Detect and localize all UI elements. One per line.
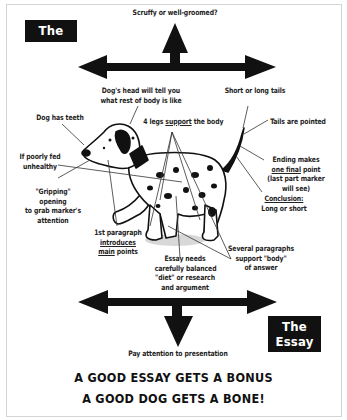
dog-title: The Dog <box>38 23 65 60</box>
essay-title-line2: Essay <box>268 334 321 349</box>
label-dog-head: Dog's head will tell you what rest of bo… <box>100 86 183 105</box>
label-several-paragraphs: Several paragraphs support "body" of ans… <box>228 244 294 273</box>
footer-line-2: A GOOD DOG GETS A BONE! <box>0 391 347 406</box>
up-arrow <box>162 23 188 64</box>
essay-title-line1: The <box>268 319 321 334</box>
bottom-arrow-group <box>78 290 277 347</box>
dog-head <box>84 124 140 169</box>
leader-short-long-tails <box>243 106 248 128</box>
label-short-long-tails: Short or long tails <box>225 86 286 96</box>
dog-title-box: The Dog <box>25 20 77 42</box>
leader-ending <box>240 146 264 160</box>
label-ending: Ending makes one final point (last part … <box>267 155 326 193</box>
label-tails-pointed: Tails are pointed <box>269 117 328 127</box>
essay-title-box: The Essay <box>268 316 321 352</box>
dog-tail <box>222 128 244 172</box>
leader-tails-pointed <box>244 120 268 134</box>
top-arrow-group <box>78 23 276 79</box>
label-conclusion: Conclusion: Long or short <box>257 194 310 213</box>
label-essay-needs: Essay needs carefully balanced "diet" or… <box>155 254 216 292</box>
label-first-paragraph: 1st paragraph introduces main points <box>90 228 145 257</box>
label-gripping: "Gripping" opening to grab marker's atte… <box>23 187 84 225</box>
dog-nose <box>82 150 90 156</box>
down-arrow <box>164 305 193 347</box>
top-arrow-label: Scruffy or well-groomed? <box>129 8 221 18</box>
label-dog-teeth: Dog has teeth <box>36 113 84 123</box>
leader-dog-teeth <box>62 124 84 145</box>
footer-line-1: A GOOD ESSAY GETS A BONUS <box>0 370 347 385</box>
label-four-legs: 4 legs support the body <box>143 117 217 127</box>
leader-dog-head <box>130 106 138 124</box>
leader-conclusion <box>236 156 262 192</box>
bottom-arrow-label: Pay attention to presentation <box>125 349 232 359</box>
label-poorly-fed: If poorly fed unhealthy <box>18 152 62 171</box>
